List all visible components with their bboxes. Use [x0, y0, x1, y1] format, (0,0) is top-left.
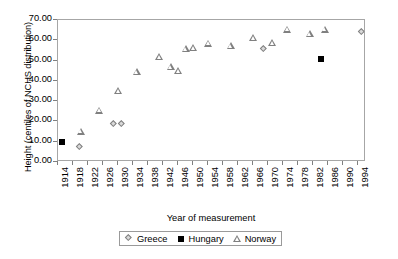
y-tick-label: 70.00: [16, 14, 52, 23]
x-tick-mark: [192, 161, 193, 165]
x-tick-label: 1942: [166, 167, 175, 188]
open-triangle-glyph: [174, 67, 182, 74]
x-tick-label: 1982: [316, 167, 325, 188]
diamond-glyph: [125, 234, 131, 240]
x-tick-label: 1934: [136, 167, 145, 188]
x-tick-mark: [72, 161, 73, 165]
open-triangle-glyph: [227, 42, 235, 49]
x-tick-mark: [252, 161, 253, 165]
x-tick-mark: [57, 161, 58, 165]
y-tick-label: 50.00: [16, 55, 52, 64]
x-tick-label: 1914: [61, 167, 70, 188]
x-tick-mark: [342, 161, 343, 165]
legend-entry-norway[interactable]: Norway: [233, 234, 277, 244]
x-tick-label: 1994: [361, 167, 370, 188]
filled-square-glyph: [178, 236, 184, 242]
y-tick-label: 30.00: [16, 95, 52, 104]
chart-legend: GreeceHungaryNorway: [119, 231, 282, 246]
y-tick-label: 10.00: [16, 136, 52, 145]
legend-entry-hungary[interactable]: Hungary: [177, 234, 224, 244]
open-triangle-glyph: [155, 53, 163, 60]
x-tick-mark: [162, 161, 163, 165]
x-tick-mark: [87, 161, 88, 165]
x-tick-mark: [297, 161, 298, 165]
bottom-caption: [4, 250, 204, 259]
y-tick-label: 40.00: [16, 75, 52, 84]
open-triangle-glyph: [233, 235, 241, 242]
x-tick-label: 1918: [76, 167, 85, 188]
legend-swatch-hungary: [177, 234, 186, 243]
plot-area: [57, 19, 365, 161]
open-triangle-glyph: [268, 39, 276, 46]
x-tick-mark: [237, 161, 238, 165]
x-tick-label: 1950: [196, 167, 205, 188]
open-triangle-glyph: [321, 26, 329, 33]
y-tick-label: 0.00: [16, 156, 52, 165]
x-tick-mark: [147, 161, 148, 165]
open-triangle-glyph: [204, 40, 212, 47]
legend-label: Greece: [137, 234, 168, 244]
x-tick-mark: [267, 161, 268, 165]
legend-entry-greece[interactable]: Greece: [125, 234, 168, 244]
x-tick-label: 1962: [241, 167, 250, 188]
open-triangle-glyph: [249, 34, 257, 41]
x-tick-label: 1986: [331, 167, 340, 188]
x-axis-title: Year of measurement: [57, 213, 365, 223]
x-tick-mark: [117, 161, 118, 165]
y-axis-tick-labels: 70.0060.0050.0040.0030.0020.0010.000.00: [14, 0, 52, 259]
x-tick-label: 1926: [106, 167, 115, 188]
x-tick-label: 1938: [151, 167, 160, 188]
x-tick-mark: [132, 161, 133, 165]
x-tick-label: 1958: [226, 167, 235, 188]
x-tick-label: 1930: [121, 167, 130, 188]
filled-square-glyph: [59, 139, 65, 145]
legend-swatch-norway: [233, 234, 242, 243]
x-tick-mark: [327, 161, 328, 165]
open-triangle-glyph: [133, 68, 141, 75]
x-tick-label: 1922: [91, 167, 100, 188]
x-tick-label: 1974: [286, 167, 295, 188]
x-tick-label: 1970: [271, 167, 280, 188]
y-tick-label: 60.00: [16, 34, 52, 43]
legend-swatch-greece: [125, 234, 134, 243]
x-tick-label: 1990: [346, 167, 355, 188]
x-tick-mark: [177, 161, 178, 165]
legend-label: Hungary: [189, 234, 224, 244]
open-triangle-glyph: [77, 128, 85, 135]
x-tick-mark: [207, 161, 208, 165]
diamond-glyph: [358, 28, 364, 34]
open-triangle-glyph: [189, 44, 197, 51]
y-tick-label: 20.00: [16, 115, 52, 124]
scatter-chart: Height (centiles of NCHS distribution) 7…: [0, 0, 398, 259]
diamond-glyph: [110, 120, 116, 126]
x-tick-label: 1978: [301, 167, 310, 188]
x-tick-mark: [102, 161, 103, 165]
x-tick-mark: [357, 161, 358, 165]
diamond-glyph: [260, 45, 266, 51]
x-tick-mark: [282, 161, 283, 165]
open-triangle-glyph: [114, 87, 122, 94]
diamond-glyph: [76, 143, 82, 149]
open-triangle-glyph: [283, 26, 291, 33]
x-tick-mark: [312, 161, 313, 165]
x-tick-label: 1966: [256, 167, 265, 188]
x-tick-label: 1946: [181, 167, 190, 188]
filled-square-glyph: [318, 56, 324, 62]
open-triangle-glyph: [95, 107, 103, 114]
diamond-glyph: [118, 120, 124, 126]
legend-label: Norway: [245, 234, 277, 244]
x-tick-label: 1954: [211, 167, 220, 188]
open-triangle-glyph: [306, 30, 314, 37]
x-axis-tick-labels: 1914191819221926193019341938194219461950…: [57, 167, 365, 213]
x-tick-mark: [222, 161, 223, 165]
